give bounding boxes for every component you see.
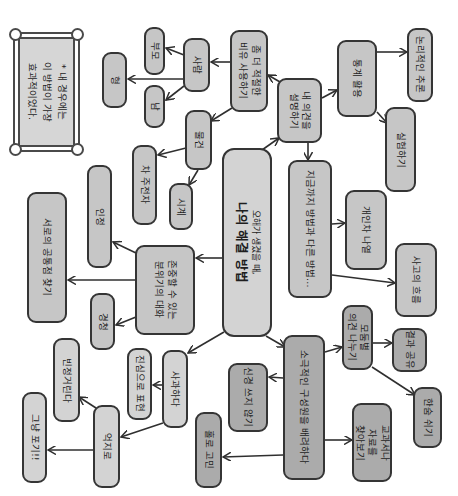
central-topic-subtitle: 오해가 생겼을 때, (249, 202, 261, 283)
central-topic-title: 나의 해결 방법 (232, 202, 249, 283)
frame-corner (71, 28, 84, 41)
mind-map: * 내 경우에는 이 방법이 가장 효과적이었다. 오해가 생겼을 때, 나의 … (0, 0, 458, 496)
node-sarcastic: 빈정거린다 (53, 338, 80, 422)
node-label: 결과 공유 (403, 330, 416, 369)
node-respectful-talk: 존중할 수 있는분위기의 대화 (135, 245, 195, 335)
node-label: 억지로 (100, 433, 113, 460)
node-label: 한숨 쉬기 (421, 398, 434, 437)
node-logical-reasoning: 논리적인 추론 (407, 28, 433, 102)
node-label: 효과적이었다. (24, 62, 39, 122)
node-label: 설명하기 (287, 91, 300, 130)
node-label: 존중할 수 있는 (165, 260, 178, 320)
node-sincerely: 진심으로 표현 (127, 348, 152, 420)
node-teapot: 차 주전자 (132, 145, 157, 225)
node-label: 찾아보기 (353, 425, 366, 461)
node-analogy: 좀 더 적절한비유 사용하기 (230, 30, 268, 112)
node-acknowledge: 인정 (87, 165, 112, 268)
node-label: 부모 (148, 42, 161, 60)
node-flow-of-thought: 사고의 흐름 (395, 243, 437, 317)
note-frame: * 내 경우에는 이 방법이 가장 효과적이었다. (13, 32, 80, 152)
node-label: 통계 활용 (351, 59, 364, 98)
node-label: 남 (148, 102, 161, 111)
node-label: 실험하기 (394, 132, 407, 168)
node-group-discussion: 모둠별의견 나누기 (342, 305, 373, 370)
frame-corner (71, 143, 84, 156)
node-listening: 경청 (90, 293, 115, 350)
node-label: 사고의 흐름 (410, 256, 423, 304)
node-ignore: 신경 쓰지 않기 (228, 363, 268, 432)
node-label: 홀로 고민 (202, 430, 215, 469)
node-label: 경청 (96, 313, 109, 331)
node-individual-difference: 개인차 나열 (345, 190, 387, 270)
node-apologize: 사과하다 (162, 350, 188, 428)
node-label: 빈정거린다 (60, 358, 73, 403)
node-label: 내 의견을 (300, 91, 313, 130)
node-label: 의견 나누기 (345, 313, 358, 361)
node-label: 사과하다 (169, 371, 182, 407)
node-find-materials: 교과서나자료를찾아보기 (352, 403, 392, 482)
node-share-results: 결과 공유 (392, 328, 427, 372)
node-label: 그냥 포기!! (28, 414, 41, 461)
node-parents: 부모 (144, 27, 165, 75)
node-give-up: 그냥 포기!! (22, 392, 47, 483)
node-experiment: 실험하기 (385, 107, 416, 192)
node-explain-opinion: 내 의견을설명하기 (277, 78, 322, 143)
node-label: 좀 더 적절한 (249, 42, 262, 99)
node-different-method: 지금까지 방법과 다른 방법… (288, 160, 332, 298)
node-label: 시계 (175, 198, 188, 216)
node-label: 비유 사용하기 (236, 42, 249, 99)
node-people: 사람 (183, 38, 210, 92)
note-text: * 내 경우에는 이 방법이 가장 효과적이었다. (24, 62, 68, 122)
node-brother: 형 (102, 52, 127, 108)
node-statistics: 통계 활용 (337, 40, 377, 117)
node-common-ground: 서로의 공통점 찾기 (27, 192, 67, 323)
node-label: 신경 쓰지 않기 (242, 367, 255, 427)
node-label: 소극적인 구성원을 배려하다 (298, 350, 311, 464)
node-clock: 시계 (169, 183, 193, 230)
frame-corner (9, 143, 22, 156)
node-label: * 내 경우에는 (54, 62, 69, 122)
node-take-breath: 한숨 쉬기 (413, 387, 442, 448)
node-label: 서로의 공통점 찾기 (41, 218, 54, 296)
node-passive-members: 소극적인 구성원을 배려하다 (283, 335, 325, 480)
node-label: 물건 (192, 131, 205, 149)
node-label: 개인차 나열 (360, 206, 373, 254)
node-label: 진심으로 표현 (133, 355, 146, 412)
node-label: 인정 (93, 208, 106, 226)
node-forced: 억지로 (93, 405, 120, 488)
node-label: 형 (108, 76, 121, 85)
central-topic: 오해가 생겼을 때, 나의 해결 방법 (222, 148, 272, 337)
node-label: 사람 (190, 56, 203, 74)
node-label: 교과서나 (378, 425, 391, 461)
node-label: 모둠별 (358, 313, 371, 361)
node-others: 남 (144, 85, 165, 128)
node-label: 이 방법이 가장 (39, 62, 54, 122)
frame-corner (9, 28, 22, 41)
node-label: 분위기의 대화 (152, 260, 165, 320)
node-label: 논리적인 추론 (414, 36, 427, 93)
node-worry-alone: 홀로 고민 (195, 412, 222, 488)
node-label: 자료를 (366, 425, 379, 461)
node-objects: 물건 (185, 110, 212, 170)
node-label: 차 주전자 (138, 165, 151, 204)
node-label: 지금까지 방법과 다른 방법… (304, 170, 317, 288)
